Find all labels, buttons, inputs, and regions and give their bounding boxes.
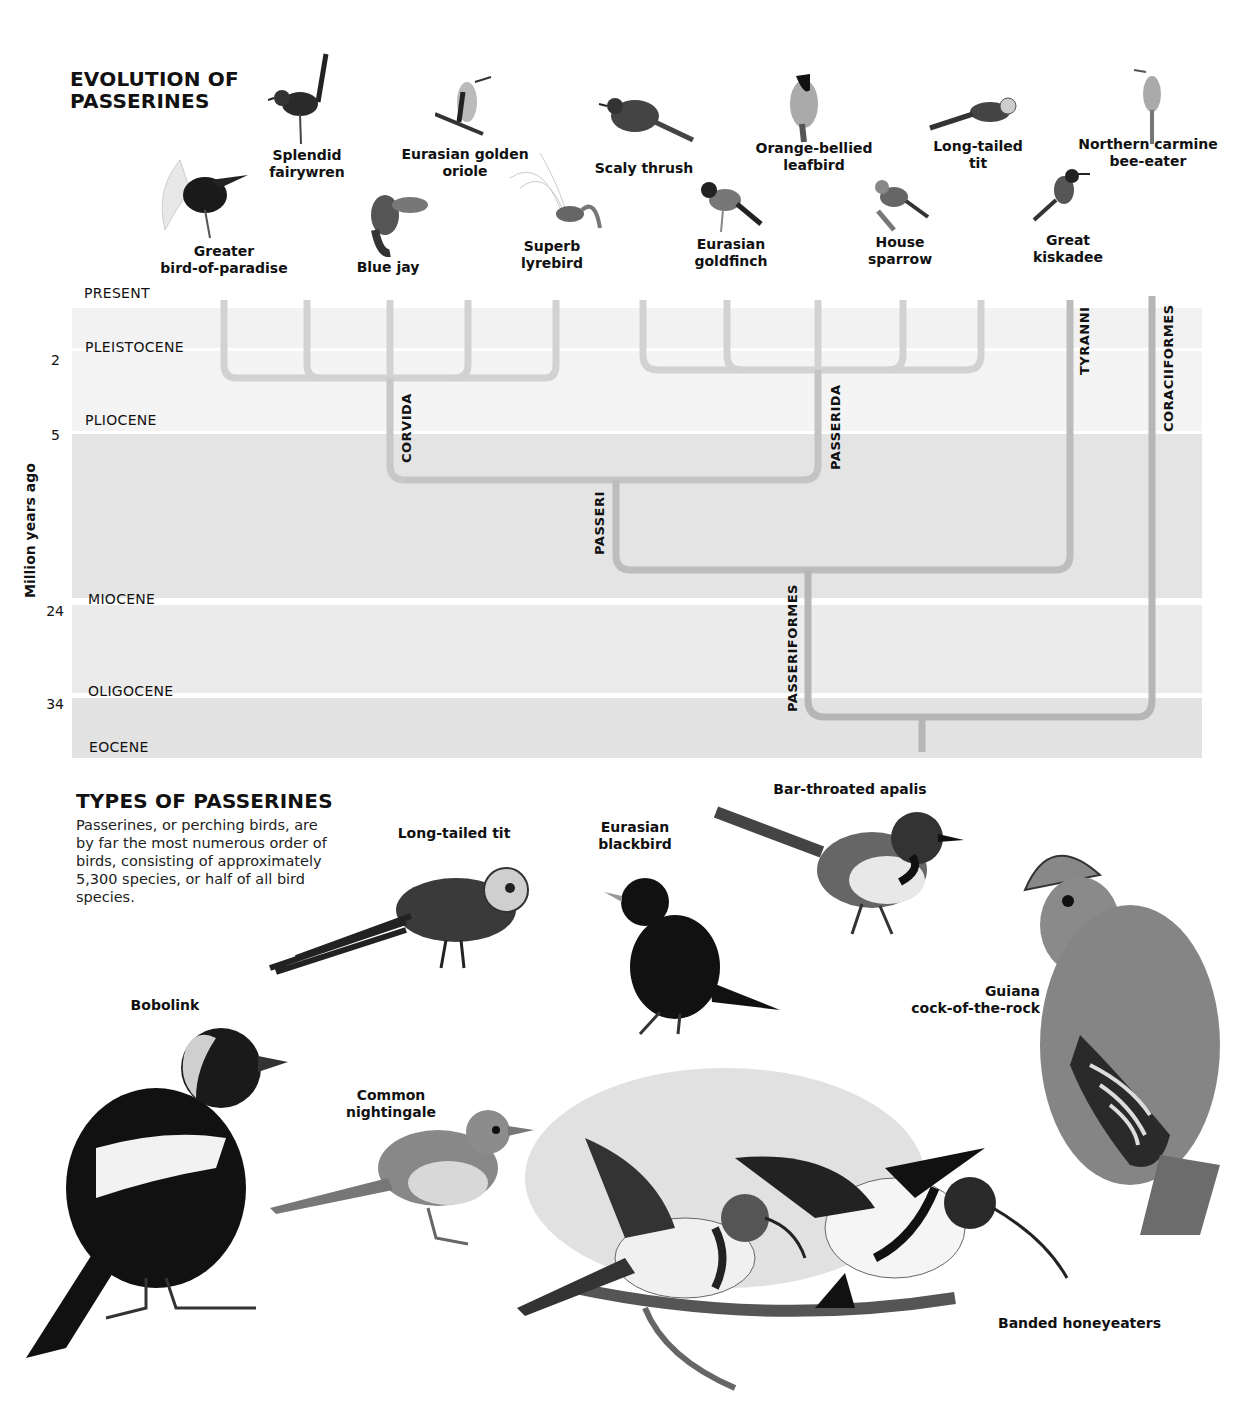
label-long-tailed-tit: Long-tailed tit xyxy=(386,825,522,842)
clade-passerida: PASSERIDA xyxy=(828,384,843,470)
label-line: Eurasian xyxy=(688,236,774,253)
label-greater-bird-of-paradise: Greater bird-of-paradise xyxy=(160,243,288,277)
label-line: Long-tailed tit xyxy=(386,825,522,842)
label-line: Long-tailed xyxy=(930,138,1026,155)
label-line: Bobolink xyxy=(120,997,210,1014)
clade-coraciiformes: CORACIIFORMES xyxy=(1161,305,1176,433)
long-tailed-tit-illustration xyxy=(266,860,546,975)
label-line: sparrow xyxy=(862,251,938,268)
superb-lyrebird-illustration xyxy=(500,148,610,238)
great-kiskadee-illustration xyxy=(1032,166,1092,224)
label-superb-lyrebird: Superb lyrebird xyxy=(512,238,592,272)
eurasian-goldfinch-illustration xyxy=(695,176,767,234)
label-orange-bellied-leafbird: Orange-bellied leafbird xyxy=(754,140,874,174)
label-great-kiskadee: Great kiskadee xyxy=(1030,232,1106,266)
label-bar-throated-apalis: Bar-throated apalis xyxy=(760,781,940,798)
label-eurasian-blackbird: Eurasian blackbird xyxy=(590,819,680,853)
label-line: Bar-throated apalis xyxy=(760,781,940,798)
corvida-branches xyxy=(224,300,556,378)
label-line: Greater xyxy=(160,243,288,260)
orange-bellied-leafbird-illustration xyxy=(780,66,828,144)
label-splendid-fairywren: Splendid fairywren xyxy=(262,147,352,181)
label-eurasian-goldfinch: Eurasian goldfinch xyxy=(688,236,774,270)
blue-jay-illustration xyxy=(355,185,430,257)
label-line: kiskadee xyxy=(1030,249,1106,266)
label-line: tit xyxy=(930,155,1026,172)
eurasian-golden-oriole-illustration xyxy=(435,72,495,142)
clade-passeri: PASSERI xyxy=(592,491,607,555)
label-line: Great xyxy=(1030,232,1106,249)
clade-passeriformes: PASSERIFORMES xyxy=(785,584,800,712)
label-line: Common xyxy=(336,1087,446,1104)
label-house-sparrow: House sparrow xyxy=(862,234,938,268)
long-tailed-tit-tree-illustration xyxy=(928,94,1023,134)
house-sparrow-illustration xyxy=(870,175,932,233)
bar-throated-apalis-illustration xyxy=(712,800,972,940)
bobolink-illustration xyxy=(16,1028,296,1368)
label-line: goldfinch xyxy=(688,253,774,270)
label-line: Splendid xyxy=(262,147,352,164)
label-line: Blue jay xyxy=(350,259,426,276)
splendid-fairywren-illustration xyxy=(268,52,338,147)
passeri-branch xyxy=(616,300,1070,570)
clade-tyranni: TYRANNI xyxy=(1077,307,1092,375)
label-line: bee-eater xyxy=(1078,153,1218,170)
label-long-tailed-tit-tree: Long-tailed tit xyxy=(930,138,1026,172)
label-line: bird-of-paradise xyxy=(160,260,288,277)
label-line: House xyxy=(862,234,938,251)
banded-honeyeaters-illustration xyxy=(515,1058,1075,1393)
northern-carmine-bee-eater-illustration xyxy=(1132,66,1172,146)
passerida-branches xyxy=(643,300,981,370)
label-line: blackbird xyxy=(590,836,680,853)
label-bobolink: Bobolink xyxy=(120,997,210,1014)
label-blue-jay: Blue jay xyxy=(350,259,426,276)
label-line: lyrebird xyxy=(512,255,592,272)
common-nightingale-illustration xyxy=(268,1108,538,1258)
label-line: Eurasian xyxy=(590,819,680,836)
label-line: Superb xyxy=(512,238,592,255)
label-line: fairywren xyxy=(262,164,352,181)
label-line: leafbird xyxy=(754,157,874,174)
clade-corvida: CORVIDA xyxy=(399,393,414,463)
greater-bird-of-paradise-illustration xyxy=(150,150,250,240)
scaly-thrush-illustration xyxy=(597,88,697,148)
types-title: TYPES OF PASSERINES xyxy=(76,790,333,812)
